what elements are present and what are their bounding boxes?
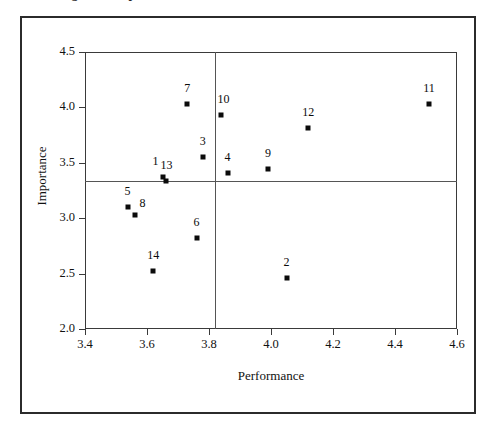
data-point-label: 11 <box>415 81 443 96</box>
data-point-label: 3 <box>189 134 217 149</box>
data-point-label: 2 <box>273 255 301 270</box>
data-point-label: 9 <box>254 146 282 161</box>
y-tick-mark <box>79 52 85 53</box>
data-point-marker <box>284 276 289 281</box>
data-point-label: 8 <box>129 196 157 211</box>
x-tick-mark <box>457 329 458 335</box>
x-tick-label: 4.2 <box>313 337 353 352</box>
data-point-marker <box>225 170 230 175</box>
x-tick-mark <box>333 329 334 335</box>
y-tick-label: 4.5 <box>41 44 75 59</box>
data-point-marker <box>151 269 156 274</box>
x-tick-label: 4.6 <box>437 337 477 352</box>
data-point-label: 14 <box>139 248 167 263</box>
y-axis-title: Importance <box>34 116 50 236</box>
x-tick-mark <box>147 329 148 335</box>
x-tick-mark <box>85 329 86 335</box>
y-tick-mark <box>79 163 85 164</box>
data-point-marker <box>427 102 432 107</box>
data-point-marker <box>200 155 205 160</box>
x-tick-label: 3.8 <box>189 337 229 352</box>
x-tick-mark <box>395 329 396 335</box>
y-tick-mark <box>79 107 85 108</box>
data-point-marker <box>265 167 270 172</box>
data-point-marker <box>163 178 168 183</box>
x-axis-title: Performance <box>85 368 457 384</box>
x-tick-mark <box>271 329 272 335</box>
x-tick-label: 3.6 <box>127 337 167 352</box>
x-tick-mark <box>209 329 210 335</box>
y-tick-mark <box>79 274 85 275</box>
data-point-marker <box>132 212 137 217</box>
data-point-marker <box>194 236 199 241</box>
x-tick-label: 4.4 <box>375 337 415 352</box>
data-point-label: 6 <box>183 215 211 230</box>
reference-line-horizontal <box>85 181 457 182</box>
x-tick-label: 4.0 <box>251 337 291 352</box>
data-point-marker <box>306 126 311 131</box>
y-tick-label: 2.5 <box>41 266 75 281</box>
data-point-label: 13 <box>153 158 181 173</box>
data-point-label: 4 <box>214 150 242 165</box>
data-point-marker <box>219 113 224 118</box>
x-tick-label: 3.4 <box>65 337 105 352</box>
scatter-chart: 2.02.53.03.54.04.5 3.43.63.84.04.24.44.6… <box>0 0 499 435</box>
y-tick-label: 4.0 <box>41 99 75 114</box>
data-point-label: 12 <box>294 105 322 120</box>
data-point-marker <box>185 102 190 107</box>
y-tick-label: 2.0 <box>41 321 75 336</box>
data-point-label: 7 <box>173 81 201 96</box>
y-tick-mark <box>79 218 85 219</box>
data-point-label: 10 <box>209 92 237 107</box>
